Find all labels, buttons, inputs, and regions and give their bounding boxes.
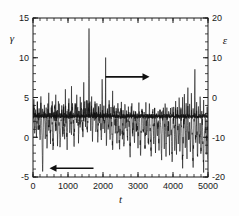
x-tick-label: 1000 — [58, 181, 78, 191]
y-left-tick-label: 15 — [19, 13, 29, 23]
y-left-tick-label: 10 — [19, 53, 29, 63]
arrow-to-left-axis-head — [50, 165, 57, 172]
y-right-tick-label: 0 — [212, 93, 217, 103]
plot-frame — [33, 18, 208, 177]
x-axis-title: t — [119, 193, 123, 205]
figure-container: 010002000300040005000t-5051015γ-20-10010… — [0, 0, 239, 216]
y-right-tick-label: 20 — [212, 13, 222, 23]
arrow-to-right-axis-head — [143, 73, 150, 80]
y-left-tick-label: -5 — [21, 172, 29, 182]
y-right-tick-label: 10 — [212, 53, 222, 63]
y-left-tick-label: 0 — [24, 133, 29, 143]
y-left-tick-label: 5 — [24, 93, 29, 103]
y-right-tick-label: -10 — [212, 133, 225, 143]
x-tick-label: 4000 — [163, 181, 183, 191]
x-tick-label: 5000 — [198, 181, 218, 191]
series-gamma-upper-trace — [33, 28, 208, 118]
x-tick-label: 0 — [30, 181, 35, 191]
x-tick-label: 2000 — [93, 181, 113, 191]
y-left-axis-title: γ — [10, 32, 15, 44]
y-right-tick-label: -20 — [212, 172, 225, 182]
chart-canvas: 010002000300040005000t-5051015γ-20-10010… — [0, 0, 239, 216]
y-right-axis-title: ε — [223, 34, 228, 46]
x-tick-label: 3000 — [128, 181, 148, 191]
